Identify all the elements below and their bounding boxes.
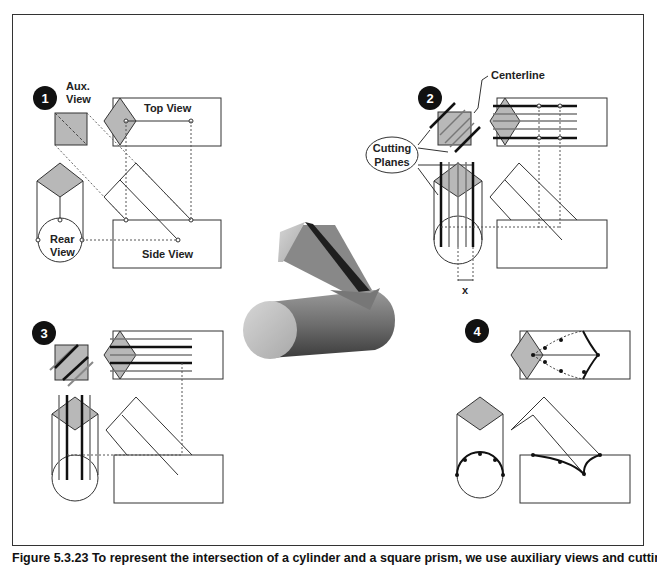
step-4-badge: 4 — [473, 324, 481, 339]
svg-text:View: View — [50, 246, 75, 258]
step-2-badge: 2 — [426, 91, 433, 106]
svg-text:View: View — [66, 93, 91, 105]
top-view-label: Top View — [144, 102, 192, 114]
svg-text:Planes: Planes — [374, 156, 409, 168]
figure-caption: Figure 5.3.23 To represent the intersect… — [12, 549, 657, 568]
x-dimension-label: x — [462, 284, 469, 296]
step-2-diagram: 2 Centerline Cutting Planes — [366, 69, 607, 296]
step-1-diagram: 1 Aux. View Top View Rear View Side View — [33, 80, 221, 268]
rear-view-label: Rear — [50, 233, 75, 245]
step-4-diagram: 4 — [455, 319, 630, 503]
prism-cylinder-3d-render — [243, 222, 395, 359]
step-1-badge: 1 — [41, 91, 48, 106]
diagram-canvas: 1 Aux. View Top View Rear View Side View — [0, 0, 657, 568]
side-view-label: Side View — [142, 248, 194, 260]
aux-view-label: Aux. — [66, 80, 90, 92]
step-3-diagram: 3 — [32, 321, 223, 503]
centerline-label: Centerline — [491, 69, 545, 81]
step-3-badge: 3 — [40, 326, 47, 341]
cutting-planes-label: Cutting — [373, 142, 411, 154]
